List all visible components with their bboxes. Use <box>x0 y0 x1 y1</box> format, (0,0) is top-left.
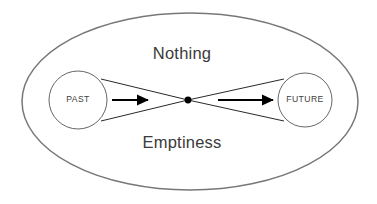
region-label-nothing: Nothing <box>153 44 211 62</box>
diagram-canvas: Nothing Emptiness PAST FUTURE <box>0 0 377 204</box>
past-node-label: PAST <box>66 94 90 104</box>
time-cone-diagram: Nothing Emptiness PAST FUTURE <box>0 0 377 204</box>
region-label-emptiness: Emptiness <box>143 133 222 151</box>
future-node-label: FUTURE <box>286 94 324 104</box>
singularity-dot <box>185 97 192 104</box>
